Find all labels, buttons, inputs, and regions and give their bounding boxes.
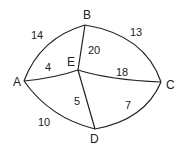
node-c: C	[166, 78, 175, 92]
weight-a-b: 14	[31, 29, 43, 41]
weight-a-e: 4	[45, 61, 51, 73]
graph-diagram: 14 13 20 4 18 5 10 7 A B C D E	[0, 0, 184, 150]
weight-b-c: 13	[130, 26, 142, 38]
node-a: A	[13, 75, 21, 89]
weight-a-d: 10	[38, 116, 50, 128]
edge-a-d	[24, 81, 95, 129]
weight-e-d: 5	[74, 95, 80, 107]
weight-b-e: 20	[88, 44, 100, 56]
edge-e-d	[78, 70, 95, 129]
weight-e-c: 18	[116, 66, 128, 78]
edge-b-e	[78, 25, 85, 70]
node-d: D	[90, 132, 99, 146]
node-e: E	[67, 55, 75, 69]
weight-d-c: 7	[125, 99, 131, 111]
node-b: B	[83, 8, 91, 22]
